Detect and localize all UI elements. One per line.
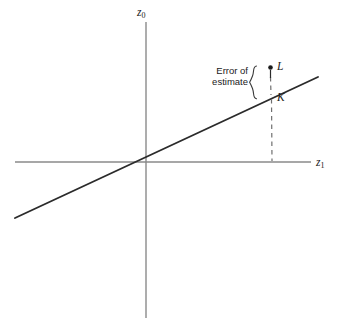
error-annotation-line-1: Error of [192,65,248,76]
axis-label-horizontal: z1 [316,156,324,170]
curly-brace-icon [250,66,257,99]
error-dashed-segment [271,77,272,95]
drop-line-dashed [272,99,273,161]
regression-line [15,77,318,218]
axis-label-vertical-subscript: 0 [141,11,145,20]
error-annotation-line-2: estimate [192,76,248,87]
error-of-estimate-annotation: Error of estimate [192,65,248,87]
point-label-L: L [277,60,283,74]
regression-figure: z0 z1 L K Error of estimate [0,0,341,332]
figure-canvas [0,0,341,332]
axis-label-vertical: z0 [137,6,145,20]
point-label-K: K [277,91,285,105]
axis-label-horizontal-subscript: 1 [320,161,324,170]
point-marker-L [268,65,273,70]
